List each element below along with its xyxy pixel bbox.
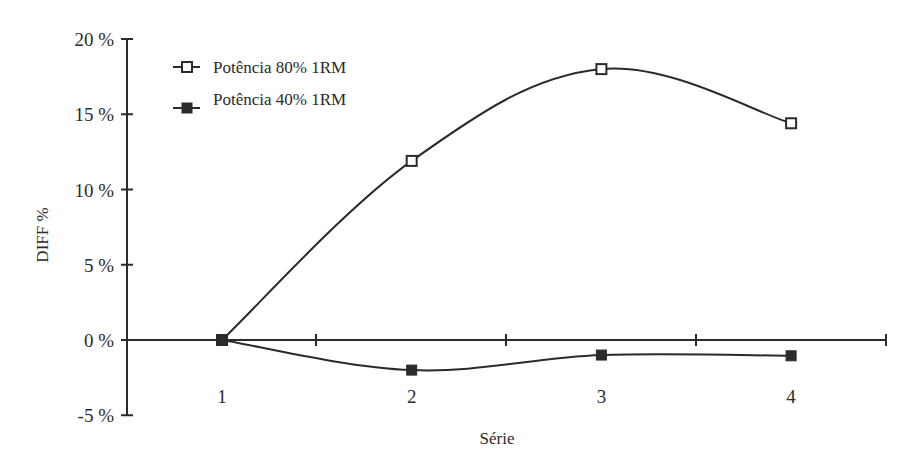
x-tick-label: 4	[786, 386, 796, 407]
filled-square-marker-icon	[407, 365, 417, 375]
x-axis: 1234	[127, 334, 887, 407]
y-tick-label: -5 %	[78, 405, 115, 426]
legend: Potência 80% 1RM Potência 40% 1RM	[173, 58, 346, 113]
filled-square-marker-icon	[217, 335, 227, 345]
legend-item-40: Potência 40% 1RM	[173, 90, 346, 113]
filled-square-marker-icon	[786, 351, 796, 361]
legend-label-40: Potência 40% 1RM	[213, 90, 346, 109]
series-layer	[217, 64, 796, 375]
legend-item-80: Potência 80% 1RM	[173, 58, 346, 77]
y-axis: -5 %0 %5 %10 %15 %20 %	[74, 29, 133, 426]
filled-square-marker-icon	[182, 103, 192, 113]
x-tick-label: 1	[217, 386, 227, 407]
y-tick-label: 15 %	[74, 104, 114, 125]
y-axis-title: DIFF %	[33, 207, 52, 262]
x-axis-title: Série	[480, 429, 515, 448]
y-tick-label: 10 %	[74, 180, 114, 201]
y-tick-label: 5 %	[84, 255, 114, 276]
filled-square-marker-icon	[596, 350, 606, 360]
open-square-marker-icon	[182, 62, 192, 72]
open-square-marker-icon	[596, 64, 606, 74]
open-square-marker-icon	[786, 118, 796, 128]
x-tick-label: 2	[407, 386, 417, 407]
y-tick-label: 20 %	[74, 29, 114, 50]
open-square-marker-icon	[407, 156, 417, 166]
line-chart: -5 %0 %5 %10 %15 %20 % 1234 DIFF % Série…	[0, 0, 915, 472]
series-line	[222, 68, 791, 340]
x-tick-label: 3	[597, 386, 607, 407]
y-tick-label: 0 %	[84, 330, 114, 351]
legend-label-80: Potência 80% 1RM	[213, 58, 346, 77]
